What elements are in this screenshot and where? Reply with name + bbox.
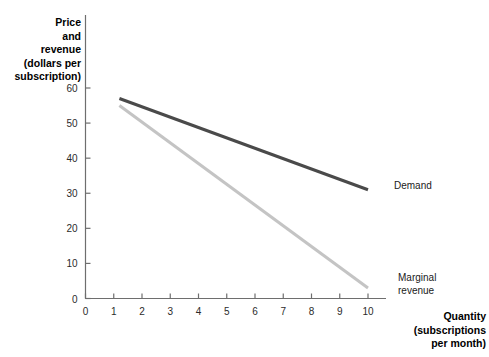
series-label-marginal-revenue: Marginal revenue bbox=[398, 272, 436, 297]
x-tick-label: 0 bbox=[83, 306, 89, 317]
series-lines bbox=[119, 99, 368, 288]
y-axis-ticks bbox=[86, 88, 91, 299]
series-label-demand: Demand bbox=[394, 180, 432, 193]
y-tick-label: 0 bbox=[72, 293, 78, 304]
x-tick-label: 8 bbox=[309, 306, 315, 317]
y-tick-label: 60 bbox=[66, 83, 77, 94]
y-tick-label: 30 bbox=[66, 188, 77, 199]
x-tick-label: 7 bbox=[280, 306, 286, 317]
x-tick-label: 5 bbox=[224, 306, 230, 317]
y-tick-label: 50 bbox=[66, 118, 77, 129]
x-tick-label: 10 bbox=[362, 306, 373, 317]
series-line-demand bbox=[119, 99, 368, 190]
x-axis-ticks bbox=[86, 294, 369, 299]
y-tick-label: 10 bbox=[66, 258, 77, 269]
x-tick-label: 4 bbox=[196, 306, 202, 317]
y-tick-label: 20 bbox=[66, 223, 77, 234]
x-tick-label: 1 bbox=[111, 306, 117, 317]
x-tick-label: 3 bbox=[167, 306, 173, 317]
x-tick-label: 6 bbox=[252, 306, 258, 317]
x-tick-label: 9 bbox=[337, 306, 343, 317]
y-tick-label: 40 bbox=[66, 153, 77, 164]
series-line-marginal-revenue bbox=[119, 106, 368, 288]
axis-lines bbox=[85, 15, 386, 299]
x-tick-label: 2 bbox=[139, 306, 145, 317]
demand-marginal-revenue-chart: Price and revenue (dollars per subscript… bbox=[0, 0, 489, 357]
